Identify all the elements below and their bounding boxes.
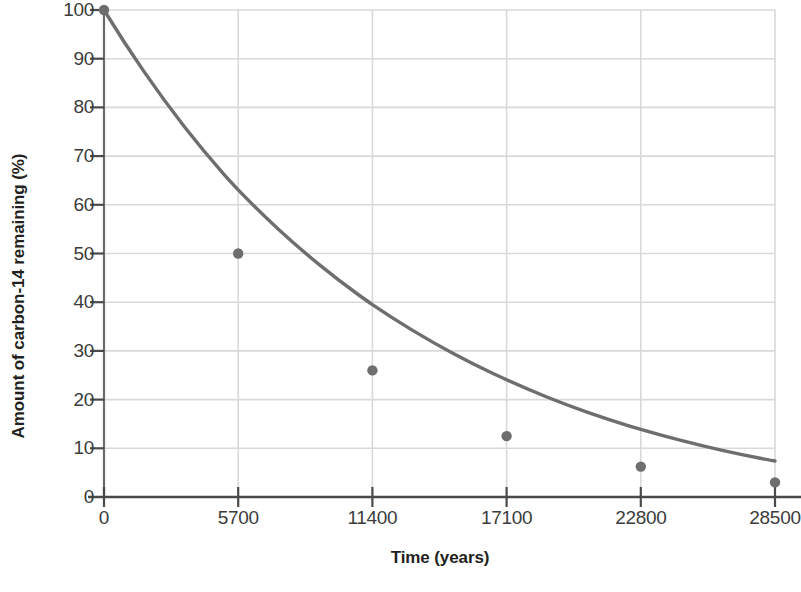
y-tick-label: 40 <box>73 291 94 313</box>
data-point <box>99 5 109 15</box>
y-tick-label: 10 <box>73 437 94 459</box>
y-tick-label: 50 <box>73 243 94 265</box>
y-axis-tick-labels: 100 90 80 70 60 50 40 30 20 10 0 <box>38 0 94 592</box>
data-point <box>233 248 243 258</box>
y-axis-title: Amount of carbon-14 remaining (%) <box>0 0 38 592</box>
plot-area <box>0 0 801 592</box>
data-point <box>636 461 646 471</box>
x-axis-title: Time (years) <box>104 548 776 568</box>
y-tick-label: 80 <box>73 96 94 118</box>
y-tick-label: 90 <box>73 48 94 70</box>
x-tick-label: 5700 <box>218 507 259 529</box>
decay-curve <box>104 10 775 461</box>
data-point <box>770 477 780 487</box>
data-point <box>501 431 511 441</box>
horizontal-gridlines <box>104 10 775 448</box>
y-tick-label: 70 <box>73 145 94 167</box>
x-tick-label: 28500 <box>749 507 800 529</box>
y-tick-label: 60 <box>73 194 94 216</box>
x-tick-label: 0 <box>99 507 109 529</box>
carbon-14-decay-chart: Amount of carbon-14 remaining (%) 100 90… <box>0 0 801 592</box>
data-point-markers <box>99 5 780 488</box>
y-tick-label: 0 <box>84 486 94 508</box>
y-tick-label: 100 <box>63 0 94 21</box>
data-point <box>367 365 377 375</box>
x-tick-label: 17100 <box>481 507 532 529</box>
x-tick-label: 22800 <box>615 507 666 529</box>
y-tick-label: 20 <box>73 389 94 411</box>
x-tick-label: 11400 <box>347 507 397 529</box>
y-tick-label: 30 <box>73 340 94 362</box>
